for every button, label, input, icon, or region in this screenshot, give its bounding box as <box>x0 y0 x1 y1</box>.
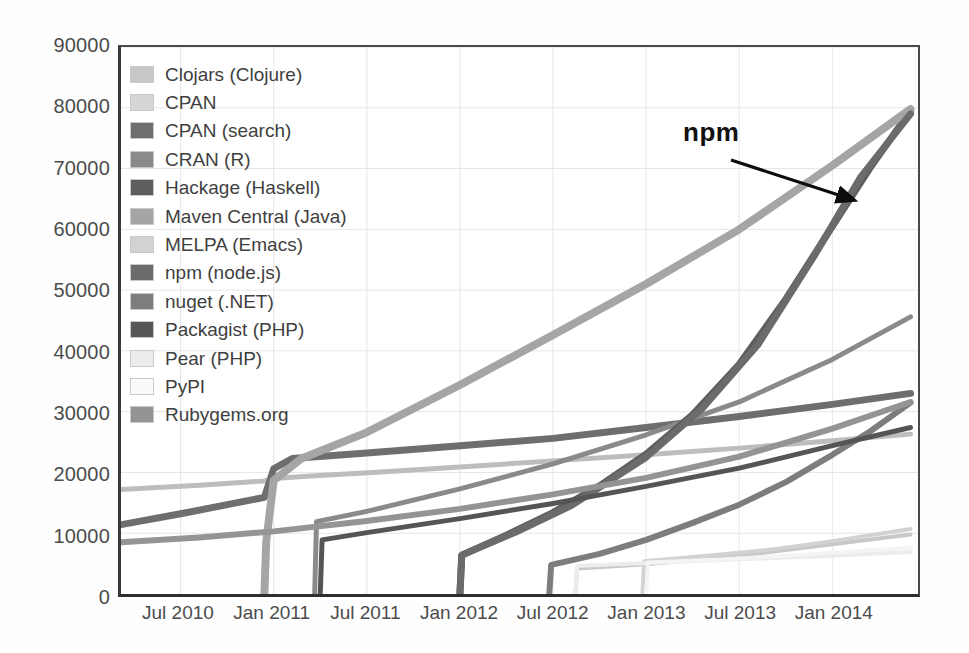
x-axis-tick-label: Jan 2011 <box>233 602 310 624</box>
legend-item-label: Rubygems.org <box>165 405 289 424</box>
y-axis-tick-label: 0 <box>6 586 110 609</box>
y-axis-tick-label: 40000 <box>6 340 110 363</box>
x-axis-tick-label: Jan 2012 <box>420 602 498 624</box>
legend-item[interactable]: npm (node.js) <box>130 259 376 287</box>
legend-item[interactable]: Packagist (PHP) <box>130 316 376 344</box>
legend-color-swatch <box>130 208 154 225</box>
legend-color-swatch <box>130 66 154 83</box>
legend-item[interactable]: Clojars (Clojure) <box>130 60 376 88</box>
y-axis-tick-label: 80000 <box>6 95 110 118</box>
npm-annotation-label: npm <box>683 117 739 148</box>
x-axis-tick-label: Jul 2012 <box>517 602 589 624</box>
y-axis-tick-label: 60000 <box>6 218 110 241</box>
legend-item-label: Hackage (Haskell) <box>165 178 320 197</box>
legend-color-swatch <box>130 293 154 310</box>
legend-color-swatch <box>130 179 154 196</box>
x-axis-tick-label: Jul 2010 <box>142 602 214 624</box>
legend-item[interactable]: CRAN (R) <box>130 145 376 173</box>
x-axis-labels: Jul 2010Jan 2011Jul 2011Jan 2012Jul 2012… <box>118 602 920 636</box>
legend-item[interactable]: Rubygems.org <box>130 401 376 429</box>
y-axis-labels: 9000080000700006000050000400003000020000… <box>0 45 110 597</box>
legend-item[interactable]: MELPA (Emacs) <box>130 230 376 258</box>
legend-color-swatch <box>130 236 154 253</box>
legend-color-swatch <box>130 151 154 168</box>
legend-color-swatch <box>130 378 154 395</box>
legend-item-label: Packagist (PHP) <box>165 320 304 339</box>
legend-item[interactable]: Pear (PHP) <box>130 344 376 372</box>
legend-item-label: npm (node.js) <box>165 263 281 282</box>
legend-item[interactable]: PyPI <box>130 372 376 400</box>
y-axis-tick-label: 50000 <box>6 279 110 302</box>
y-axis-tick-label: 90000 <box>6 34 110 57</box>
legend-item[interactable]: CPAN (search) <box>130 117 376 145</box>
legend-item[interactable]: Hackage (Haskell) <box>130 174 376 202</box>
x-axis-tick-label: Jan 2014 <box>795 602 873 624</box>
legend-item[interactable]: nuget (.NET) <box>130 287 376 315</box>
legend-color-swatch <box>130 264 154 281</box>
chart-legend: Clojars (Clojure)CPANCPAN (search)CRAN (… <box>130 58 376 429</box>
y-axis-tick-label: 10000 <box>6 524 110 547</box>
legend-item[interactable]: CPAN <box>130 88 376 116</box>
chart-root: 9000080000700006000050000400003000020000… <box>0 0 969 653</box>
legend-item-label: Clojars (Clojure) <box>165 65 302 84</box>
legend-item-label: nuget (.NET) <box>165 292 274 311</box>
legend-color-swatch <box>130 321 154 338</box>
legend-item-label: MELPA (Emacs) <box>165 235 303 254</box>
x-axis-tick-label: Jul 2011 <box>330 602 400 624</box>
legend-color-swatch <box>130 350 154 367</box>
legend-item-label: PyPI <box>165 377 205 396</box>
x-axis-tick-label: Jul 2013 <box>704 602 776 624</box>
legend-item-label: CPAN (search) <box>165 121 291 140</box>
legend-item-label: CPAN <box>165 93 216 112</box>
legend-item-label: Maven Central (Java) <box>165 207 347 226</box>
legend-item-label: Pear (PHP) <box>165 349 262 368</box>
legend-color-swatch <box>130 122 154 139</box>
y-axis-tick-label: 30000 <box>6 402 110 425</box>
legend-color-swatch <box>130 94 154 111</box>
y-axis-tick-label: 20000 <box>6 463 110 486</box>
legend-color-swatch <box>130 406 154 423</box>
y-axis-tick-label: 70000 <box>6 156 110 179</box>
legend-item-label: CRAN (R) <box>165 150 251 169</box>
x-axis-tick-label: Jan 2013 <box>607 602 685 624</box>
legend-item[interactable]: Maven Central (Java) <box>130 202 376 230</box>
